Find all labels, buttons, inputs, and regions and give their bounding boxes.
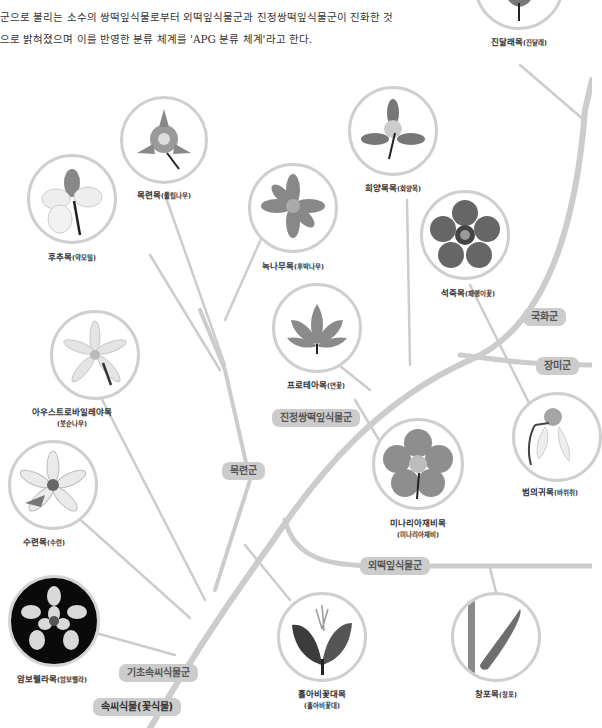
order-example: (암보렐라) (57, 676, 87, 684)
order-name: 아우스트로바일레야목 (32, 406, 112, 418)
order-example: (창포) (499, 691, 517, 699)
order-example: (연꽃) (327, 382, 345, 390)
order-name: 진달래목 (491, 37, 523, 47)
order-example: (홀아비꽃대) (298, 700, 346, 712)
group-label-angiosperms-root: 속씨식물(꽃식물) (93, 698, 181, 716)
order-example: (붓순나무) (32, 418, 112, 430)
tulip-tree-flower-icon (120, 96, 208, 184)
order-example: (후박나무) (294, 263, 324, 271)
boxwood-flower-icon (348, 86, 438, 176)
machilus-flower-icon (248, 163, 338, 253)
order-example: (수련) (47, 539, 65, 547)
illicium-flower-icon (50, 310, 140, 400)
order-name: 홀아비꽃대목 (298, 688, 346, 700)
group-label-eudicots: 진정쌍떡잎식물군 (272, 409, 360, 427)
order-name: 프로테아목 (287, 380, 327, 390)
order-name: 석죽목 (441, 288, 465, 298)
houttuynia-flower-icon (27, 154, 117, 244)
group-label-basal-angiosperms: 기초속씨식물군 (119, 664, 198, 682)
order-example: (회양목) (397, 185, 421, 193)
group-label-rosids: 장미군 (536, 357, 579, 375)
order-example: (미나리아재비) (390, 529, 446, 541)
amborella-flower-icon (8, 575, 100, 667)
order-name: 회양목목 (365, 183, 397, 193)
dianthus-flower-icon (420, 190, 510, 280)
acorus-spadix-icon (451, 592, 541, 682)
order-name: 암보렐라목 (17, 674, 57, 684)
order-example: (튤립나무) (161, 192, 191, 200)
group-label-asterids: 국화군 (523, 308, 566, 326)
order-example: (패랭이꽃) (465, 290, 495, 298)
group-label-magnoliids: 목련군 (222, 462, 265, 480)
water-lily-flower-icon (8, 440, 98, 530)
order-example: (진달래) (523, 39, 547, 47)
buttercup-flower-icon (372, 418, 464, 510)
saxifrage-flower-icon (512, 392, 602, 482)
order-name: 창포목 (475, 689, 499, 699)
order-name: 미나리아재비목 (390, 517, 446, 529)
order-name: 후추목 (48, 252, 72, 262)
order-example: (약모밀) (72, 254, 96, 262)
order-name: 목련목 (137, 190, 161, 200)
order-name: 녹나무목 (262, 261, 294, 271)
lotus-flower-icon (272, 283, 362, 373)
group-label-monocots: 외떡잎식물군 (360, 557, 430, 575)
order-name: 범의귀목 (522, 487, 554, 497)
chloranthus-flower-icon (277, 592, 367, 682)
order-example: (바위취) (554, 489, 578, 497)
order-name: 수련목 (23, 537, 47, 547)
